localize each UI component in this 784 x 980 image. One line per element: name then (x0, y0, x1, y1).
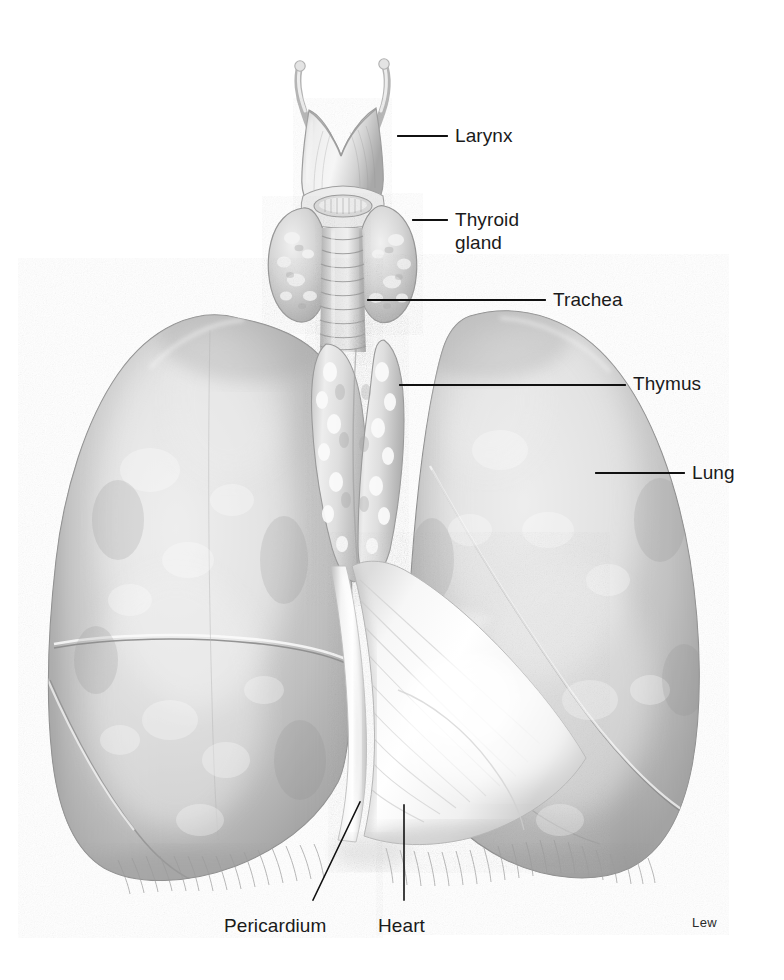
label-pericardium: Pericardium (224, 914, 326, 937)
label-heart: Heart (378, 914, 425, 937)
trachea-structure (320, 228, 366, 352)
anatomical-figure: LarynxThyroidglandTracheaThymusLungPeric… (0, 0, 784, 980)
anatomy-illustration (0, 0, 784, 980)
label-thyroid2: gland (455, 231, 502, 254)
artist-signature: Lew (692, 915, 717, 930)
label-thyroid: Thyroid (455, 208, 519, 231)
label-lung: Lung (692, 461, 735, 484)
label-thymus: Thymus (633, 372, 701, 395)
label-larynx: Larynx (455, 124, 513, 147)
label-trachea: Trachea (553, 288, 623, 311)
